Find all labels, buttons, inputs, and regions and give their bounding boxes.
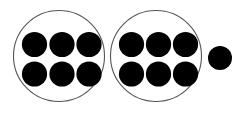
counter-group-1[interactable]	[14, 11, 105, 102]
group-1-counter-5[interactable]	[49, 61, 74, 86]
group-1-counter-3[interactable]	[76, 32, 101, 57]
group-2-counter-1[interactable]	[119, 32, 144, 57]
counter-group-2[interactable]	[111, 11, 202, 102]
group-2-counter-3[interactable]	[173, 32, 198, 57]
counters-diagram-canvas: Two circles each holding six black dots,…	[0, 0, 242, 117]
loose-counters[interactable]	[208, 46, 232, 70]
group-2-counter-5[interactable]	[146, 61, 171, 86]
group-1-counter-1[interactable]	[22, 32, 47, 57]
group-2-counter-6[interactable]	[173, 61, 198, 86]
counters-diagram-svg	[0, 0, 242, 117]
loose-counter-1[interactable]	[208, 46, 232, 70]
group-1-counter-6[interactable]	[76, 61, 101, 86]
group-2-counter-2[interactable]	[146, 32, 171, 57]
group-1-counter-4[interactable]	[22, 61, 47, 86]
group-1-counter-2[interactable]	[49, 32, 74, 57]
group-2-counter-4[interactable]	[119, 61, 144, 86]
